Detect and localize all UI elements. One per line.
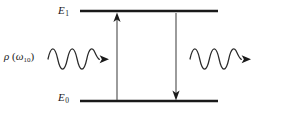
- downward-emission-arrow: [172, 13, 179, 101]
- diagram-canvas: [0, 0, 299, 119]
- omega-subscript: 10: [23, 56, 30, 64]
- upward-absorption-arrow: [113, 13, 120, 101]
- energy-level-diagram: E1 E0 ρ (ω10): [0, 0, 299, 119]
- radiation-density-label: ρ (ω10): [4, 50, 34, 62]
- close-paren: ): [30, 50, 34, 62]
- energy-level-label-lower-subscript: 0: [65, 96, 69, 105]
- energy-level-label-upper: E1: [58, 4, 68, 16]
- energy-level-label-upper-base: E: [58, 4, 65, 16]
- energy-level-label-lower-base: E: [58, 91, 65, 103]
- incoming-photon-wave: [48, 49, 109, 69]
- energy-level-label-lower: E0: [58, 91, 68, 103]
- outgoing-photon-wave: [190, 49, 251, 69]
- energy-level-label-upper-subscript: 1: [65, 9, 69, 18]
